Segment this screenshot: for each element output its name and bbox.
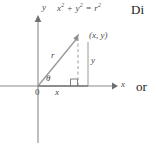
radius-label: r <box>51 51 55 60</box>
point-coordinate-label: (x, y) <box>89 31 107 40</box>
figure-panel: x2 + y2 = r2 y x (x, y) r y x θ 0 Di or <box>0 0 157 146</box>
equation-equals: = <box>85 3 91 13</box>
y-axis-arrowhead <box>35 15 42 22</box>
vertical-leg-label: y <box>91 56 95 65</box>
x-axis-label: x <box>121 80 125 89</box>
x-axis-arrowhead <box>112 83 118 90</box>
side-text-middle: or <box>136 80 147 93</box>
equation-x-exponent: 2 <box>61 2 64 8</box>
equation-y-exponent: 2 <box>80 2 83 8</box>
right-angle-marker <box>71 79 78 86</box>
side-text-top: Di <box>131 3 144 16</box>
circle-equation-label: x2 + y2 = r2 <box>57 2 101 13</box>
equation-r-exponent: 2 <box>98 2 101 8</box>
y-axis-label: y <box>42 3 46 12</box>
right-triangle-unit-circle-diagram <box>0 0 157 146</box>
origin-label: 0 <box>35 88 40 97</box>
horizontal-leg-label: x <box>55 88 59 97</box>
angle-theta-label: θ <box>46 74 50 83</box>
equation-plus: + <box>67 3 73 13</box>
